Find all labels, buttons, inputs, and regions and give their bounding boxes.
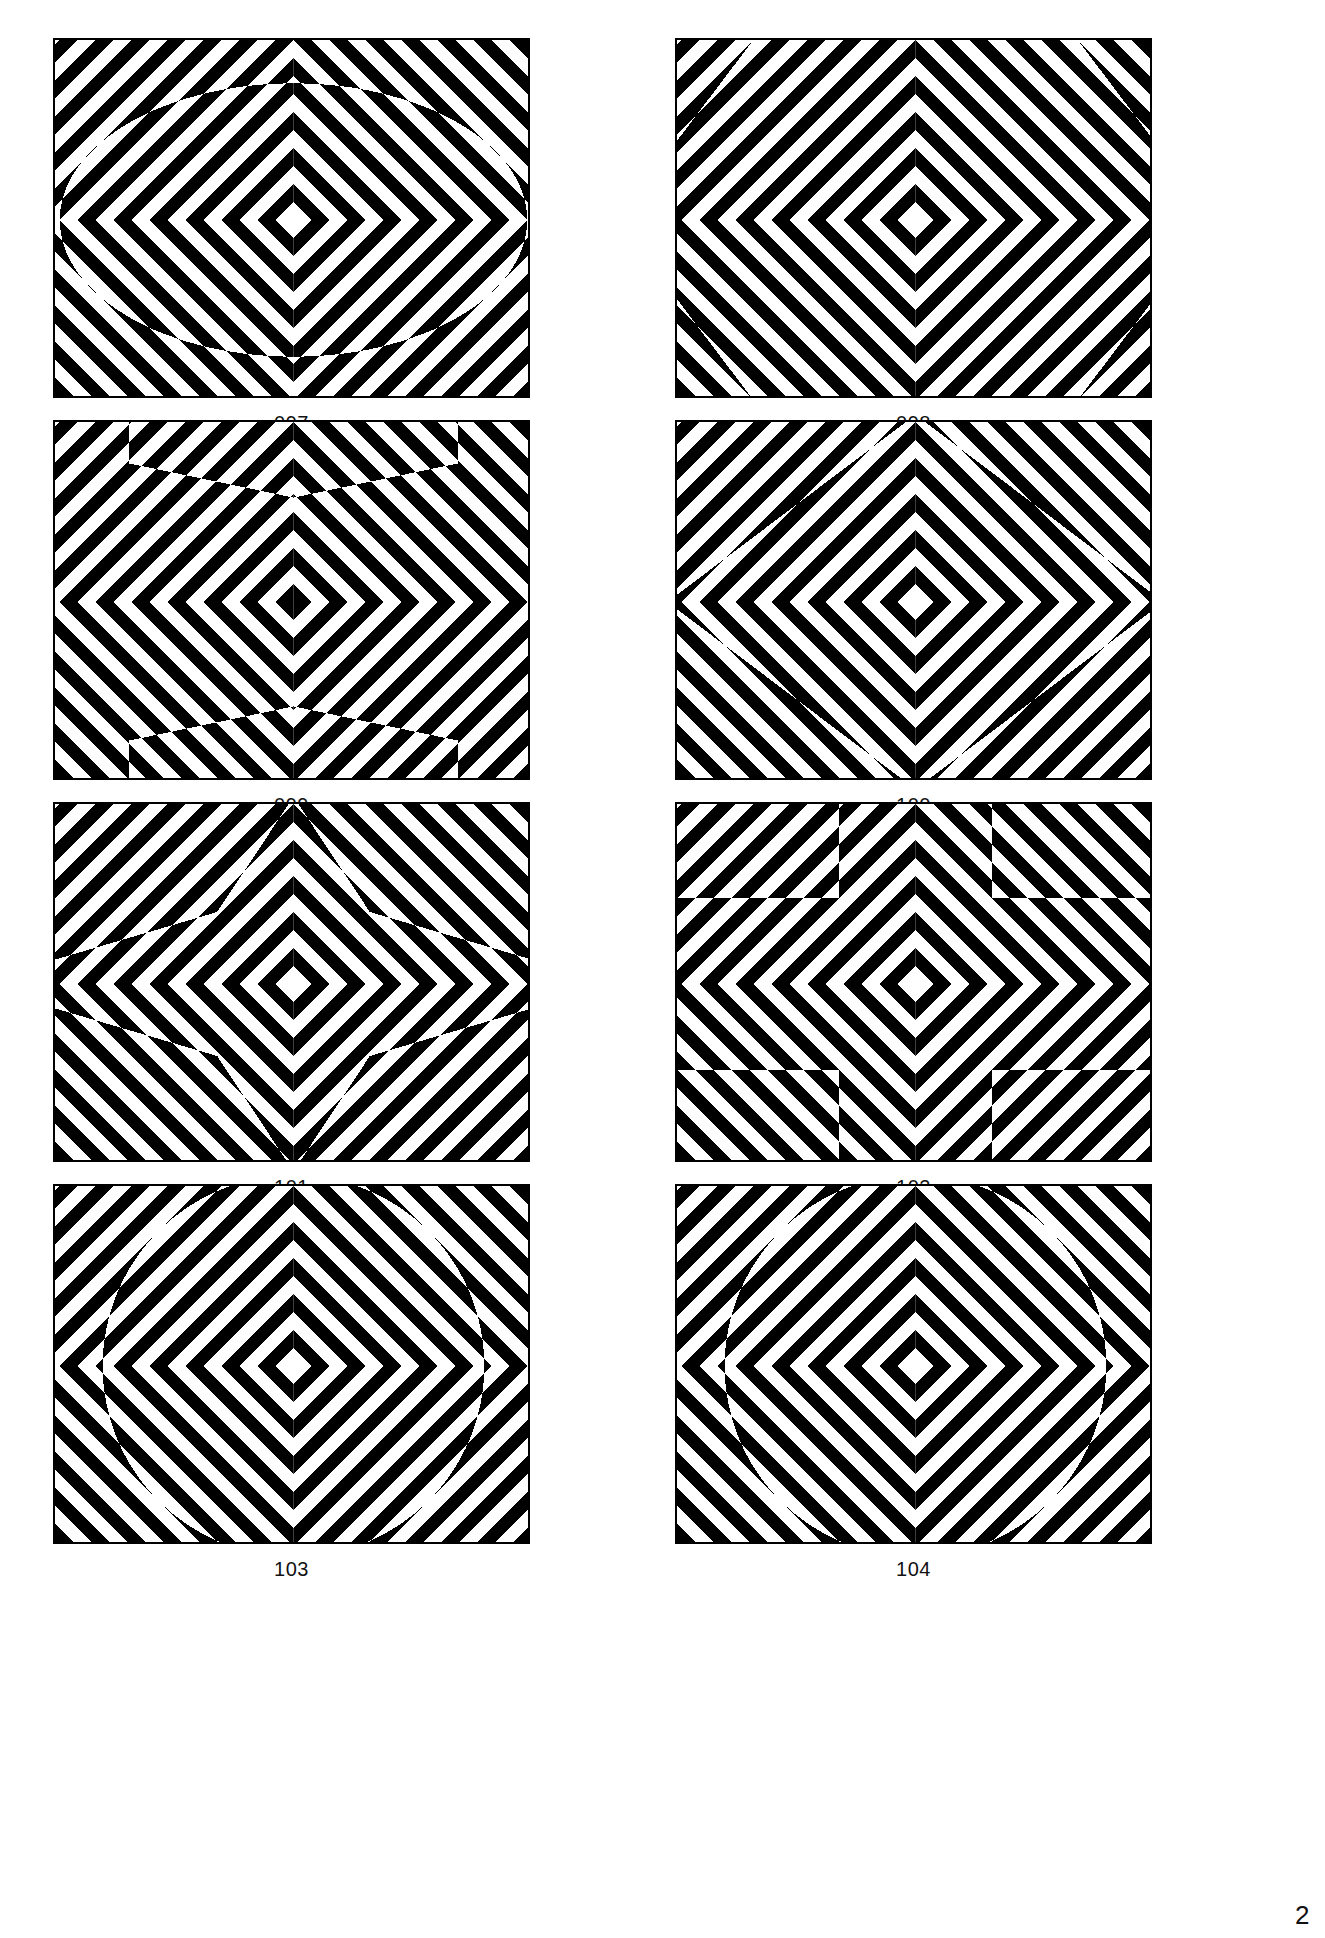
figure-cell-102: 102 — [675, 802, 1152, 1202]
panel-grid: 097 098 — [0, 0, 1325, 1938]
figure-cell-099: 099 — [53, 420, 530, 820]
figure-100-diamond[interactable] — [675, 420, 1152, 780]
figure-103-circle[interactable] — [53, 1184, 530, 1544]
figure-099-tall-rectangle[interactable] — [53, 420, 530, 780]
figure-cell-098: 098 — [675, 38, 1152, 438]
figure-104-circle-rectangle-union[interactable] — [675, 1184, 1152, 1544]
figure-097-ellipse[interactable] — [53, 38, 530, 398]
plate-sheet: 097 098 — [0, 0, 1325, 1938]
page-number: 2 — [1295, 1900, 1321, 1936]
figure-caption-104: 104 — [675, 1558, 1152, 1581]
figure-cell-100: 100 — [675, 420, 1152, 820]
figure-cell-104: 104 — [675, 1184, 1152, 1584]
figure-cell-101: 101 — [53, 802, 530, 1202]
figure-cell-097: 097 — [53, 38, 530, 438]
figure-cell-103: 103 — [53, 1184, 530, 1584]
figure-102-plus-cross[interactable] — [675, 802, 1152, 1162]
figure-098-octagon[interactable] — [675, 38, 1152, 398]
figure-caption-103: 103 — [53, 1558, 530, 1581]
figure-101-six-point-star[interactable] — [53, 802, 530, 1162]
